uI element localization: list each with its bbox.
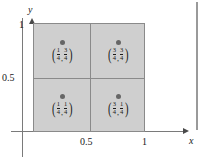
point-dot: [60, 94, 65, 99]
fraction-denominator: 4: [57, 54, 60, 62]
point-dot: [116, 40, 121, 45]
fraction-numerator: 3: [113, 101, 116, 108]
cell-bottom-right: ( 3 4 , 1 4 ): [90, 78, 146, 132]
open-paren: (: [52, 100, 56, 117]
fraction-denominator: 4: [64, 54, 67, 62]
fraction-numerator: 3: [64, 47, 67, 54]
unit-square-figure: y x 1 0.5 0.5 1 ( 1 4 , 3 4 ): [0, 0, 203, 165]
open-paren: (: [108, 100, 112, 117]
close-paren: ): [69, 46, 73, 63]
coordinate-label-top-right: ( 3 4 , 3 4 ): [107, 46, 130, 63]
y-tick-label-0-5: 0.5: [2, 73, 15, 83]
fraction-denominator: 4: [113, 54, 116, 62]
fraction-y: 3 4: [120, 47, 124, 62]
fraction-numerator: 1: [120, 101, 123, 108]
fraction-numerator: 3: [120, 47, 123, 54]
point-dot: [116, 94, 121, 99]
x-tick-label-0-5: 0.5: [80, 137, 93, 147]
fraction-denominator: 4: [120, 108, 123, 116]
cell-top-right: ( 3 4 , 3 4 ): [90, 24, 146, 78]
close-paren: ): [125, 46, 129, 63]
fraction-y: 1 4: [120, 101, 124, 116]
y-axis-label: y: [28, 5, 32, 15]
x-axis-label: x: [189, 136, 193, 146]
coordinate-label-bottom-left: ( 1 4 , 1 4 ): [51, 100, 74, 117]
close-paren: ): [125, 100, 129, 117]
fraction-denominator: 4: [120, 54, 123, 62]
y-tick-label-1: 1: [19, 20, 24, 30]
fraction-numerator: 1: [57, 101, 60, 108]
fraction-numerator: 1: [64, 101, 67, 108]
x-axis-arrow-icon: [183, 128, 189, 134]
unit-square-region: ( 1 4 , 3 4 ) ( 3 4: [33, 23, 145, 132]
coordinate-label-bottom-right: ( 3 4 , 1 4 ): [107, 100, 130, 117]
fraction-denominator: 4: [64, 108, 67, 116]
x-tick-label-1: 1: [142, 137, 147, 147]
fraction-denominator: 4: [57, 108, 60, 116]
open-paren: (: [52, 46, 56, 63]
y-axis-line: [22, 18, 23, 157]
close-paren: ): [69, 100, 73, 117]
cell-top-left: ( 1 4 , 3 4 ): [34, 24, 90, 78]
open-paren: (: [108, 46, 112, 63]
coordinate-label-top-left: ( 1 4 , 3 4 ): [51, 46, 74, 63]
point-dot: [60, 40, 65, 45]
fraction-y: 1 4: [64, 101, 68, 116]
fraction-y: 3 4: [64, 47, 68, 62]
fraction-numerator: 1: [57, 47, 60, 54]
fraction-denominator: 4: [113, 108, 116, 116]
fraction-numerator: 3: [113, 47, 116, 54]
page-edge-rule: [196, 2, 198, 130]
cell-bottom-left: ( 1 4 , 1 4 ): [34, 78, 90, 132]
